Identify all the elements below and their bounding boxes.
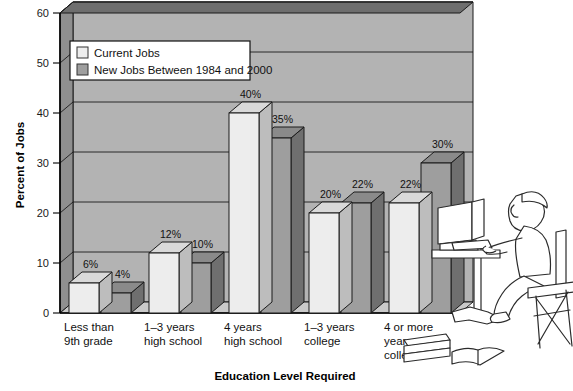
x-axis-category-labels: Less than9th grade1–3 yearshigh school4 … [64, 321, 433, 361]
value-label-new-jobs-4: 22% [352, 178, 373, 190]
value-label-current-jobs-5: 22% [400, 178, 421, 190]
category-label-3-line-2: high school [224, 335, 282, 347]
legend-swatch-1 [77, 47, 88, 58]
ytick-label-0: 0 [43, 307, 49, 319]
value-label-new-jobs-1: 4% [115, 268, 130, 280]
ytick-label-40: 40 [37, 107, 49, 119]
bar-current-jobs-1 [69, 272, 112, 313]
y-axis-title: Percent of Jobs [14, 122, 26, 208]
person-shoe [490, 312, 510, 323]
bar-current-jobs-5-face [389, 203, 419, 313]
chair-leg-back [566, 290, 572, 346]
category-label-5-line-1: 4 or more [384, 321, 433, 333]
plot-top-cap [60, 2, 473, 13]
bar-current-jobs-5-side [419, 192, 432, 313]
chair-rung [534, 310, 570, 316]
value-label-current-jobs-4: 20% [320, 188, 341, 200]
chair-leg-front [536, 296, 540, 348]
bar-current-jobs-3 [229, 102, 272, 313]
bar-current-jobs-2-face [149, 253, 179, 313]
category-label-4-line-1: 1–3 years [304, 321, 355, 333]
bar-current-jobs-3-face [229, 113, 259, 313]
legend-label-2: New Jobs Between 1984 and 2000 [94, 64, 272, 76]
value-label-current-jobs-3: 40% [240, 88, 261, 100]
chair-cross-1 [536, 298, 570, 344]
category-label-3-line-1: 4 years [224, 321, 262, 333]
monitor-screen [438, 202, 472, 244]
value-label-new-jobs-5: 30% [432, 138, 453, 150]
bar-group-3: 35%40% [229, 88, 304, 313]
category-label-1-line-1: Less than [64, 321, 114, 333]
chart-figure: 010203040506030%22%22%20%35%40%10%12%4%6… [0, 0, 573, 391]
bar-current-jobs-2 [149, 242, 192, 313]
ytick-label-20: 20 [37, 207, 49, 219]
bar-group-4: 22%20% [309, 178, 384, 313]
person-torso [516, 226, 551, 277]
value-label-current-jobs-1: 6% [83, 258, 98, 270]
legend-label-1: Current Jobs [94, 47, 160, 59]
category-label-2-line-2: high school [144, 335, 202, 347]
bar-chart-canvas: 010203040506030%22%22%20%35%40%10%12%4%6… [0, 0, 573, 391]
category-label-1-line-2: 9th grade [64, 335, 113, 347]
bar-current-jobs-2-side [179, 242, 192, 313]
bar-new-jobs-3-side [291, 127, 304, 313]
ytick-label-10: 10 [37, 257, 49, 269]
bar-current-jobs-4 [309, 202, 352, 313]
bar-current-jobs-1-face [69, 283, 99, 313]
ytick-label-50: 50 [37, 57, 49, 69]
value-label-current-jobs-2: 12% [160, 228, 181, 240]
bar-new-jobs-4-side [371, 192, 384, 313]
bar-current-jobs-3-side [259, 102, 272, 313]
bar-current-jobs-4-face [309, 213, 339, 313]
bar-current-jobs-5 [389, 192, 432, 313]
legend-swatch-2 [77, 64, 88, 75]
category-label-2-line-1: 1–3 years [144, 321, 195, 333]
bar-current-jobs-4-side [339, 202, 352, 313]
monitor-side [472, 199, 484, 240]
category-label-4-line-2: college [304, 335, 340, 347]
value-label-new-jobs-2: 10% [192, 238, 213, 250]
ytick-label-30: 30 [37, 157, 49, 169]
ytick-label-60: 60 [37, 7, 49, 19]
chart-legend: Current JobsNew Jobs Between 1984 and 20… [70, 41, 272, 80]
x-axis-title: Education Level Required [214, 370, 355, 382]
value-label-new-jobs-3: 35% [272, 113, 293, 125]
